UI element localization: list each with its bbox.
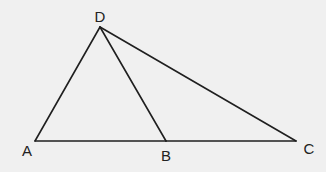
point-label-a: A (22, 142, 32, 159)
segment-bd (100, 27, 166, 141)
triangle-diagram: A B C D (0, 0, 326, 172)
point-label-b: B (161, 147, 171, 164)
point-label-d: D (95, 8, 106, 25)
diagram-canvas: A B C D (0, 0, 326, 172)
segment-cd (100, 27, 296, 141)
segment-ad (35, 27, 100, 141)
point-label-c: C (304, 140, 315, 157)
